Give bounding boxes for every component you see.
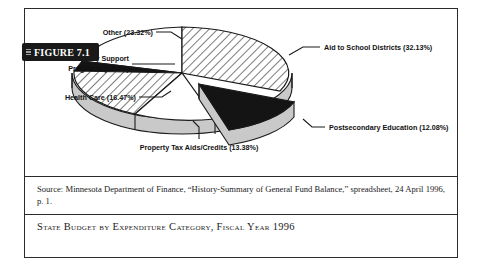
pie-chart-svg: Other (23.32%) Family Support Programs (… xyxy=(25,9,457,176)
pie-label-aid-to-school-districts: Aid to School Districts (32.13%) xyxy=(324,43,433,52)
pie-label-property-tax: Property Tax Aids/Credits (13.38%) xyxy=(140,143,259,152)
figure-number-label: FIGURE 7.1 xyxy=(34,47,90,58)
pie-slice-aid-to-school-districts xyxy=(182,27,289,91)
source-note-block: Source: Minnesota Department of Finance,… xyxy=(25,176,457,214)
pie-label-postsecondary-education: Postsecondary Education (12.08%) xyxy=(329,123,449,132)
figure-caption-title: State Budget by Expenditure Category, Fi… xyxy=(37,221,445,232)
pie-label-family-support-line2: Programs (2.63%) xyxy=(68,64,129,73)
caption-title-block: State Budget by Expenditure Category, Fi… xyxy=(25,214,457,259)
pie-slice-postsecondary-education xyxy=(199,84,294,145)
badge-tick-marks-icon xyxy=(26,49,31,56)
pie-chart-panel: Other (23.32%) Family Support Programs (… xyxy=(25,9,457,176)
source-note-text: Source: Minnesota Department of Finance,… xyxy=(37,183,445,207)
figure-number-badge: FIGURE 7.1 xyxy=(22,43,99,61)
pie-label-other: Other (23.32%) xyxy=(103,28,154,37)
figure-frame: Other (23.32%) Family Support Programs (… xyxy=(24,8,458,258)
pie-label-health-care: Health Care (16.47%) xyxy=(65,93,137,102)
